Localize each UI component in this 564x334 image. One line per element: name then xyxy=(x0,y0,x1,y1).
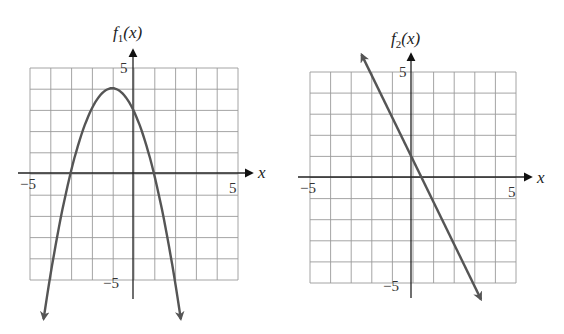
tick-y-min-f1: −5 xyxy=(103,275,119,291)
tick-x-min-f2: −5 xyxy=(300,180,316,196)
graph-f1: f1(x) x −5 5 5 −5 xyxy=(18,23,266,319)
tick-y-min-f2: −5 xyxy=(383,278,399,294)
grid-f1 xyxy=(30,68,238,280)
tick-x-max-f1: 5 xyxy=(229,180,237,196)
tick-x-min-f1: −5 xyxy=(20,176,36,192)
y-axis-label-f1: f1(x) xyxy=(113,23,142,44)
tick-y-max-f1: 5 xyxy=(120,60,128,76)
tick-x-max-f2: 5 xyxy=(508,184,516,200)
tick-y-max-f2: 5 xyxy=(399,64,407,80)
x-axis-label-f1: x xyxy=(257,163,266,182)
x-axis-label-f2: x xyxy=(536,168,545,187)
figure: f1(x) x −5 5 5 −5 f2(x) x −5 5 5 −5 xyxy=(0,0,564,334)
y-axis-label-f2: f2(x) xyxy=(391,29,420,50)
graph-f2: f2(x) x −5 5 5 −5 xyxy=(298,29,545,299)
